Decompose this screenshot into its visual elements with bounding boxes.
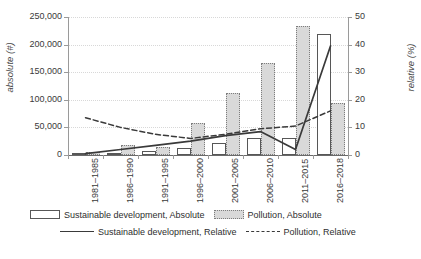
- legend-item-pollution-absolute: Pollution, Absolute: [214, 210, 322, 220]
- y-axis-left-tick: [64, 127, 68, 128]
- solid-line-swatch-icon: [60, 231, 94, 232]
- y-axis-right-tick: [348, 100, 352, 101]
- legend-label: Sustainable development, Absolute: [64, 210, 205, 220]
- legend-item-sustainable-development-absolute: Sustainable development, Absolute: [30, 210, 205, 220]
- chart-legend: Sustainable development, Absolute Pollut…: [30, 206, 400, 240]
- line-series: [86, 46, 331, 154]
- x-axis-tick-label: 2001–2005: [230, 158, 240, 203]
- legend-item-pollution-relative: Pollution, Relative: [246, 227, 356, 237]
- y-axis-left-tick-label: 100,000: [2, 95, 62, 104]
- x-axis-tick-labels: 1981–19851986–19901991–19951996–20002001…: [68, 159, 348, 205]
- x-axis-tick-label: 2011–2015: [300, 159, 310, 203]
- x-axis-tick-label: 1996–2000: [195, 158, 205, 203]
- chart-figure: absolute (#) relative (%) 050,000100,000…: [0, 0, 421, 259]
- bar-outline-swatch-icon: [30, 210, 60, 219]
- x-axis-tick-label: 1991–1995: [160, 158, 170, 203]
- y-axis-right-tick: [348, 72, 352, 73]
- y-axis-right-tick-label: 10: [355, 122, 385, 131]
- x-axis-tick: [348, 155, 349, 159]
- y-axis-left-tick: [64, 45, 68, 46]
- y-axis-left-tick-label: 0: [2, 150, 62, 159]
- y-axis-right-line: [348, 17, 349, 155]
- x-axis-tick-label: 1986–1990: [125, 158, 135, 203]
- y-axis-right-tick-label: 0: [355, 150, 385, 159]
- y-axis-right-tick-label: 30: [355, 67, 385, 76]
- y-axis-left-tick-label: 50,000: [2, 122, 62, 131]
- dashed-line-swatch-icon: [246, 231, 280, 232]
- legend-label: Pollution, Absolute: [248, 210, 322, 220]
- y-axis-right-title: relative (%): [405, 30, 416, 106]
- y-axis-left-tick-label: 150,000: [2, 67, 62, 76]
- y-axis-right-tick: [348, 17, 352, 18]
- x-axis-tick-label: 2006–2010: [265, 158, 275, 203]
- bar-filled-swatch-icon: [214, 210, 244, 219]
- legend-label: Sustainable development, Relative: [98, 227, 237, 237]
- y-axis-left-tick: [64, 72, 68, 73]
- x-axis-tick-label: 2016–2018: [335, 158, 345, 203]
- y-axis-left-line: [68, 17, 69, 155]
- y-axis-right-tick: [348, 45, 352, 46]
- x-axis-tick-label: 1981–1985: [90, 158, 100, 203]
- line-layer: [68, 17, 348, 155]
- y-axis-right-tick: [348, 127, 352, 128]
- legend-row-relative: Sustainable development, Relative Pollut…: [30, 223, 400, 240]
- y-axis-left-tick: [64, 17, 68, 18]
- y-axis-right-tick-label: 40: [355, 40, 385, 49]
- legend-label: Pollution, Relative: [284, 227, 356, 237]
- legend-item-sustainable-development-relative: Sustainable development, Relative: [60, 227, 237, 237]
- legend-row-absolute: Sustainable development, Absolute Pollut…: [30, 206, 400, 223]
- y-axis-left-tick-label: 200,000: [2, 40, 62, 49]
- plot-area: [68, 17, 348, 155]
- y-axis-left-tick-label: 250,000: [2, 12, 62, 21]
- line-series: [86, 111, 331, 139]
- y-axis-right-tick-label: 20: [355, 95, 385, 104]
- y-axis-right-tick-label: 50: [355, 12, 385, 21]
- y-axis-left-tick: [64, 100, 68, 101]
